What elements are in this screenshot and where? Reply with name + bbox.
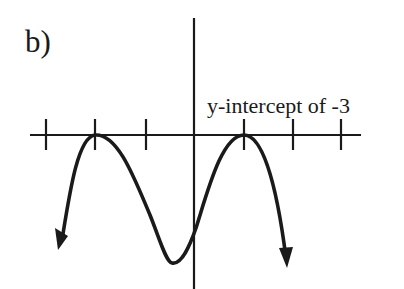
figure-canvas: b) y-intercept of -3: [0, 0, 404, 289]
graph-svg: [0, 0, 404, 289]
function-curve: [62, 135, 286, 263]
right-arrowhead-icon: [279, 247, 293, 268]
y-intercept-annotation: y-intercept of -3: [207, 95, 350, 117]
part-label: b): [25, 26, 51, 57]
left-arrowhead-icon: [55, 228, 68, 250]
